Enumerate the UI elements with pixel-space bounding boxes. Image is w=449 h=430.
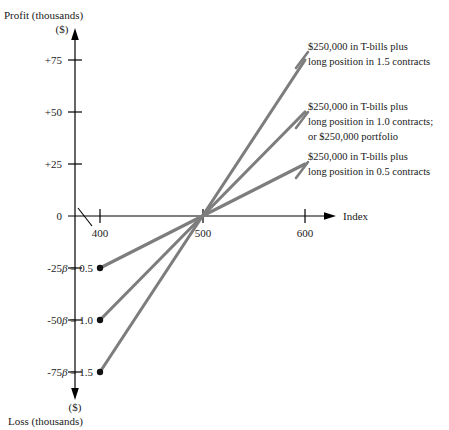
y-tick-label-75: +75	[28, 53, 62, 67]
annotation-beta-1-5-line2: long position in 1.5 contracts	[308, 55, 430, 70]
beta-label-1-5: β = 1.5	[62, 365, 93, 379]
y-tick-label-neg25: -25	[28, 261, 62, 275]
y-axis-title-bottom-line2: Loss (thousands)	[8, 414, 83, 428]
x-tick-label-600: 600	[285, 226, 325, 240]
y-axis-arrow-down	[71, 388, 79, 400]
beta-symbol-0-5: β	[62, 262, 67, 274]
x-axis-label: Index	[343, 209, 368, 223]
x-axis-arrow-right	[324, 212, 336, 220]
y-tick-label-neg50: -50	[28, 313, 62, 327]
annotation-beta-1-5: $250,000 in T-bills plus long position i…	[308, 40, 430, 70]
endpoint-dot-beta-0-5	[97, 265, 103, 271]
endpoint-dot-beta-1-5	[97, 369, 103, 375]
y-tick-label-25: +25	[28, 157, 62, 171]
x-tick-label-500: 500	[183, 226, 223, 240]
annotation-beta-1-0-line3: or $250,000 portfolio	[308, 130, 433, 145]
beta-label-0-5: β = 0.5	[62, 261, 93, 275]
annotation-beta-0-5-line1: $250,000 in T-bills plus	[308, 150, 430, 165]
annotation-beta-1-0-line2: long position in 1.0 contracts;	[308, 115, 433, 130]
y-tick-label-50: +50	[28, 105, 62, 119]
annotation-beta-1-0: $250,000 in T-bills plus long position i…	[308, 100, 433, 145]
beta-label-1-0: β = 1.0	[62, 313, 93, 327]
beta-value-1-0: = 1.0	[70, 314, 93, 326]
beta-symbol-1-5: β	[62, 366, 67, 378]
beta-value-0-5: = 0.5	[70, 262, 93, 274]
beta-symbol-1-0: β	[62, 314, 67, 326]
endpoint-dot-beta-1-0	[97, 317, 103, 323]
annotation-beta-0-5: $250,000 in T-bills plus long position i…	[308, 150, 430, 180]
annotation-beta-0-5-line2: long position in 0.5 contracts	[308, 165, 430, 180]
y-tick-label-neg75: -75	[28, 365, 62, 379]
beta-value-1-5: = 1.5	[70, 366, 93, 378]
y-tick-label-0: 0	[28, 209, 62, 223]
axis-break-mark	[78, 208, 92, 226]
annotation-beta-1-0-line1: $250,000 in T-bills plus	[308, 100, 433, 115]
y-axis-title-top-line2: ($)	[32, 22, 92, 36]
chart-figure: Profit (thousands) ($) ($) Loss (thousan…	[0, 0, 449, 430]
y-axis-title-top-line1: Profit (thousands)	[4, 8, 83, 22]
x-tick-label-400: 400	[80, 226, 120, 240]
annotation-beta-1-5-line1: $250,000 in T-bills plus	[308, 40, 430, 55]
y-axis-title-bottom-line1: ($)	[45, 400, 105, 414]
